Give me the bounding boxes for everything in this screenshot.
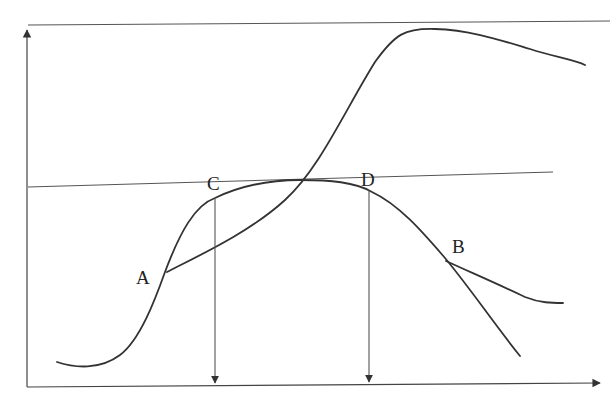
x-axis (27, 383, 600, 387)
label-b: B (452, 236, 465, 257)
diagram-canvas: A B C D (0, 0, 616, 413)
label-d: D (361, 169, 375, 190)
label-a: A (136, 267, 150, 288)
s-curve (167, 29, 585, 272)
label-c: C (207, 173, 220, 194)
top-reference-line (28, 21, 610, 25)
bell-curve (57, 180, 520, 366)
